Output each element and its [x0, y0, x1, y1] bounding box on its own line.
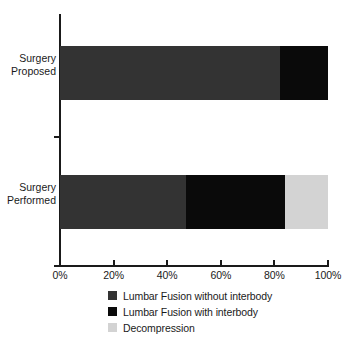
stacked-bar-chart: 0%20%40%60%80%100% Surgery Proposed Surg… — [0, 0, 352, 342]
x-axis-tick-label: 60% — [210, 269, 231, 282]
legend-item: Decompression — [108, 321, 272, 334]
legend-swatch-icon — [108, 307, 117, 316]
legend-swatch-icon — [108, 323, 117, 332]
table-row — [60, 46, 328, 100]
legend-item: Lumbar Fusion with interbody — [108, 305, 272, 318]
x-axis-tick-label: 40% — [157, 269, 178, 282]
legend-item-label: Decompression — [123, 322, 195, 334]
x-axis-tick-label: 0% — [53, 269, 68, 282]
legend-item-label: Lumbar Fusion without interbody — [123, 290, 272, 302]
x-axis-tick-label: 80% — [264, 269, 285, 282]
x-axis-tick-label: 20% — [103, 269, 124, 282]
category-label-surgery-proposed: Surgery Proposed — [0, 52, 56, 77]
x-axis-tick-label: 100% — [315, 269, 341, 282]
legend-swatch-icon — [108, 291, 117, 300]
bar-segment — [186, 175, 285, 229]
bar-segment — [285, 175, 328, 229]
legend-item: Lumbar Fusion without interbody — [108, 289, 272, 302]
bar-segment — [60, 46, 280, 100]
plot-area — [60, 14, 328, 266]
chart-legend: Lumbar Fusion without interbodyLumbar Fu… — [108, 289, 272, 334]
legend-item-label: Lumbar Fusion with interbody — [123, 306, 258, 318]
category-label-surgery-performed: Surgery Performed — [0, 181, 56, 206]
bar-segment — [60, 175, 186, 229]
bar-segment — [280, 46, 328, 100]
table-row — [60, 175, 328, 229]
